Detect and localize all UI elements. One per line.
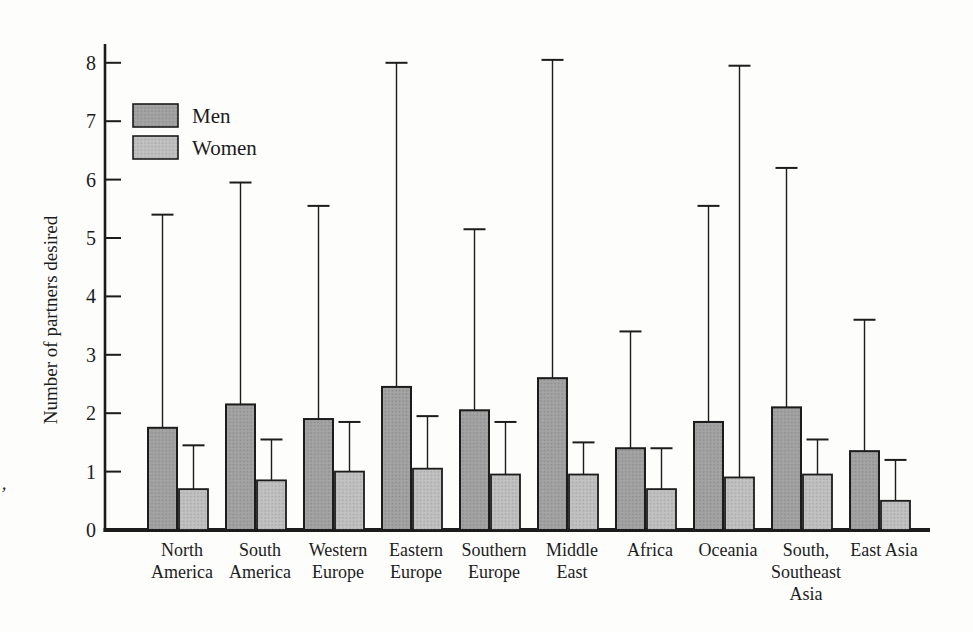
category-label-africa: Africa xyxy=(627,540,673,560)
category-label-line: East xyxy=(557,562,588,582)
category-label-southern-europe: SouthernEurope xyxy=(462,540,527,582)
category-label-oceania: Oceania xyxy=(699,540,758,560)
bar-men-south-america xyxy=(226,404,255,530)
error-bar-men-eastern-europe xyxy=(386,63,408,387)
bar-men-africa xyxy=(616,448,645,530)
category-label-line: Eastern xyxy=(389,540,443,560)
bar-men-middle-east xyxy=(538,378,567,530)
category-label-line: Southeast xyxy=(771,562,841,582)
error-bar-women-southern-europe xyxy=(495,422,517,475)
error-bar-men-africa xyxy=(620,331,642,448)
bar-women-western-europe xyxy=(335,472,364,530)
error-bar-women-africa xyxy=(651,448,673,489)
category-label-line: Western xyxy=(309,540,368,560)
bar-women-south-america xyxy=(257,480,286,530)
y-tick-label-2: 2 xyxy=(86,402,96,424)
category-label-east-asia: East Asia xyxy=(850,540,918,560)
legend: MenWomen xyxy=(133,104,257,160)
error-bar-women-oceania xyxy=(729,66,751,478)
category-label-line: Middle xyxy=(546,540,598,560)
y-axis-title: Number of partners desired xyxy=(40,215,61,424)
category-label-middle-east: MiddleEast xyxy=(546,540,598,582)
bar-men-western-europe xyxy=(304,419,333,530)
category-label-line: Southern xyxy=(462,540,527,560)
category-label-line: Europe xyxy=(390,562,442,582)
category-label-line: North xyxy=(161,540,203,560)
error-bar-women-western-europe xyxy=(339,422,361,472)
bar-women-africa xyxy=(647,489,676,530)
bar-men-oceania xyxy=(694,422,723,530)
error-bar-women-middle-east xyxy=(573,442,595,474)
category-label-line: South xyxy=(239,540,281,560)
legend-label-women: Women xyxy=(192,136,257,160)
error-bar-women-south-america xyxy=(261,439,283,480)
category-label-line: Europe xyxy=(312,562,364,582)
category-label-line: South, xyxy=(783,540,830,560)
book-figure-page: ’ 012345678Number of partners desiredNor… xyxy=(0,0,973,632)
error-bar-women-south-southeast-asia xyxy=(807,439,829,474)
bar-men-southern-europe xyxy=(460,410,489,530)
category-label-western-europe: WesternEurope xyxy=(309,540,368,582)
error-bar-women-north-america xyxy=(183,445,205,489)
legend-swatch-women xyxy=(133,136,178,159)
category-label-line: America xyxy=(229,562,291,582)
y-tick-label-0: 0 xyxy=(86,519,96,541)
y-tick-label-4: 4 xyxy=(86,285,96,307)
bar-women-east-asia xyxy=(881,501,910,530)
category-label-line: Africa xyxy=(627,540,673,560)
bar-women-south-southeast-asia xyxy=(803,475,832,530)
bar-men-south-southeast-asia xyxy=(772,407,801,530)
error-bar-women-east-asia xyxy=(885,460,907,501)
category-label-line: America xyxy=(151,562,213,582)
bar-women-eastern-europe xyxy=(413,469,442,530)
error-bar-men-middle-east xyxy=(542,60,564,378)
category-label-north-america: NorthAmerica xyxy=(151,540,213,582)
category-label-line: Oceania xyxy=(699,540,758,560)
error-bar-men-south-america xyxy=(230,183,252,405)
category-label-line: Asia xyxy=(790,584,823,604)
y-tick-label-1: 1 xyxy=(86,461,96,483)
partners-desired-bar-chart: 012345678Number of partners desiredNorth… xyxy=(0,0,973,632)
error-bar-men-south-southeast-asia xyxy=(776,168,798,407)
y-tick-label-6: 6 xyxy=(86,169,96,191)
y-tick-label-7: 7 xyxy=(86,110,96,132)
category-label-eastern-europe: EasternEurope xyxy=(389,540,443,582)
y-tick-label-5: 5 xyxy=(86,227,96,249)
error-bar-men-north-america xyxy=(152,215,174,428)
legend-label-men: Men xyxy=(192,104,231,128)
error-bar-men-oceania xyxy=(698,206,720,422)
category-label-line: East Asia xyxy=(850,540,918,560)
y-tick-label-8: 8 xyxy=(86,52,96,74)
bar-women-southern-europe xyxy=(491,475,520,530)
error-bar-women-eastern-europe xyxy=(417,416,439,469)
bar-men-north-america xyxy=(148,428,177,530)
category-label-line: Europe xyxy=(468,562,520,582)
category-label-south-southeast-asia: South,SoutheastAsia xyxy=(771,540,841,604)
error-bar-men-east-asia xyxy=(854,320,876,451)
bar-women-middle-east xyxy=(569,475,598,530)
error-bar-men-western-europe xyxy=(308,206,330,419)
category-label-south-america: SouthAmerica xyxy=(229,540,291,582)
error-bar-men-southern-europe xyxy=(464,229,486,410)
bar-men-east-asia xyxy=(850,451,879,530)
bar-women-oceania xyxy=(725,477,754,530)
bar-men-eastern-europe xyxy=(382,387,411,530)
y-tick-label-3: 3 xyxy=(86,344,96,366)
legend-swatch-men xyxy=(133,104,178,127)
bar-women-north-america xyxy=(179,489,208,530)
